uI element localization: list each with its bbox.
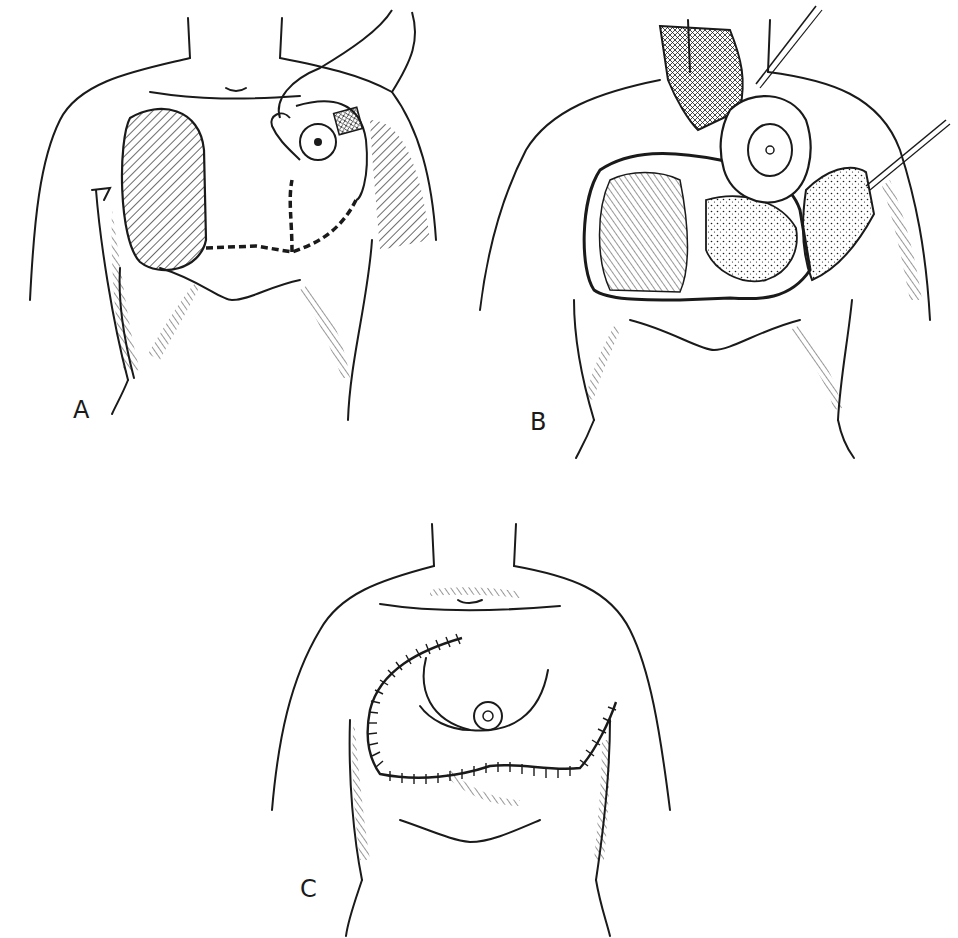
torso-illustration-b xyxy=(470,0,958,460)
torso-illustration-a xyxy=(0,0,470,440)
panel-label-b: B xyxy=(530,410,546,434)
panel-b: B xyxy=(470,0,958,460)
panel-c: C xyxy=(250,520,720,938)
torso-illustration-c xyxy=(250,520,720,938)
panel-label-c: C xyxy=(300,877,317,901)
panel-a: A xyxy=(0,0,470,440)
panel-label-a: A xyxy=(73,398,89,422)
